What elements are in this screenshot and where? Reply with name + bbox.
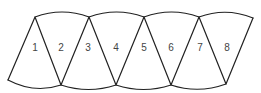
bottom-arc: [61, 85, 116, 90]
segment-label-4: 4: [113, 42, 119, 53]
segment-label-3: 3: [85, 42, 91, 53]
gore-strip-svg: 12345678: [0, 0, 261, 93]
segment-label-5: 5: [141, 42, 147, 53]
gore-strip-diagram: 12345678: [0, 0, 261, 93]
bottom-arc: [116, 85, 171, 90]
segment-label-7: 7: [197, 42, 203, 53]
segment-label-8: 8: [224, 42, 230, 53]
segment-label-1: 1: [32, 42, 38, 53]
segment-label-6: 6: [168, 42, 174, 53]
top-arc: [35, 12, 89, 17]
segment-edges: [8, 12, 253, 90]
bottom-arc: [8, 80, 61, 89]
top-arc: [144, 12, 199, 17]
top-arc: [89, 12, 144, 17]
bottom-arc: [171, 84, 226, 89]
segment-label-2: 2: [58, 42, 64, 53]
top-arc: [199, 12, 253, 18]
zigzag-edges: [8, 17, 253, 85]
